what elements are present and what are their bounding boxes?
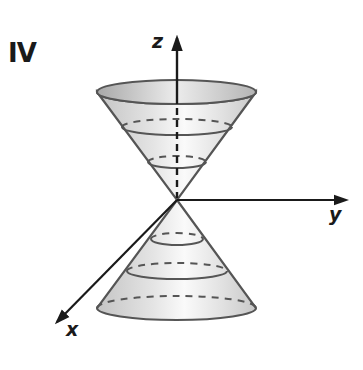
double-cone-diagram: IV z y x: [0, 0, 363, 370]
cone-graphic: [0, 0, 363, 370]
x-axis-label: x: [66, 318, 78, 340]
lower-cone: [97, 200, 256, 320]
panel-label: IV: [8, 38, 36, 68]
y-axis-label: y: [329, 203, 341, 225]
z-axis-label: z: [152, 30, 163, 52]
